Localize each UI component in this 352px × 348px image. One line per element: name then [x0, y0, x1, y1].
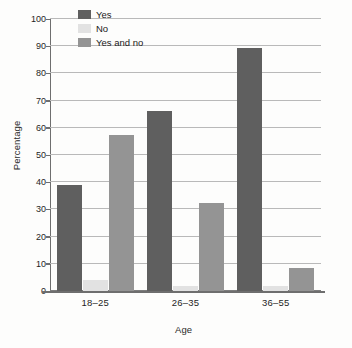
- bar: [173, 286, 198, 291]
- bar-group: [50, 19, 140, 291]
- y-tick-label: 10: [20, 259, 46, 269]
- y-tick-label: 30: [20, 204, 46, 214]
- y-tick-label: 90: [20, 41, 46, 51]
- x-tick-label: 26–35: [140, 297, 230, 308]
- y-tick-label: 50: [20, 150, 46, 160]
- legend-label: Yes: [96, 9, 112, 20]
- x-tick-label: 18–25: [50, 297, 140, 308]
- bar-group: [231, 19, 321, 291]
- legend-label: Yes and no: [96, 37, 143, 48]
- y-tick-label: 40: [20, 177, 46, 187]
- bar: [57, 185, 82, 291]
- y-tick-label: 60: [20, 123, 46, 133]
- x-axis-line: [42, 291, 325, 293]
- bar: [147, 111, 172, 291]
- bar: [199, 203, 224, 291]
- x-tick-label: 36–55: [231, 297, 321, 308]
- bar-group: [140, 19, 230, 291]
- bar: [83, 280, 108, 291]
- legend-label: No: [96, 23, 108, 34]
- legend-item: Yes: [78, 8, 143, 21]
- bar-chart-figure: Percentage 0102030405060708090100 18–252…: [0, 0, 352, 348]
- x-axis-title: Age: [45, 324, 322, 335]
- y-tick-label: 70: [20, 96, 46, 106]
- y-tick-label: 80: [20, 68, 46, 78]
- legend-item: Yes and no: [78, 36, 143, 49]
- plot-area: [50, 19, 321, 291]
- y-tick-label: 20: [20, 232, 46, 242]
- legend-swatch-icon: [78, 10, 91, 19]
- bar: [289, 268, 314, 291]
- y-axis-tick-labels: 0102030405060708090100: [16, 19, 46, 291]
- y-tick-label: 100: [20, 14, 46, 24]
- legend-item: No: [78, 22, 143, 35]
- bar: [263, 286, 288, 291]
- bar: [237, 48, 262, 291]
- legend-swatch-icon: [78, 24, 91, 33]
- bar: [109, 135, 134, 291]
- legend-swatch-icon: [78, 38, 91, 47]
- chart-legend: YesNoYes and no: [78, 8, 143, 49]
